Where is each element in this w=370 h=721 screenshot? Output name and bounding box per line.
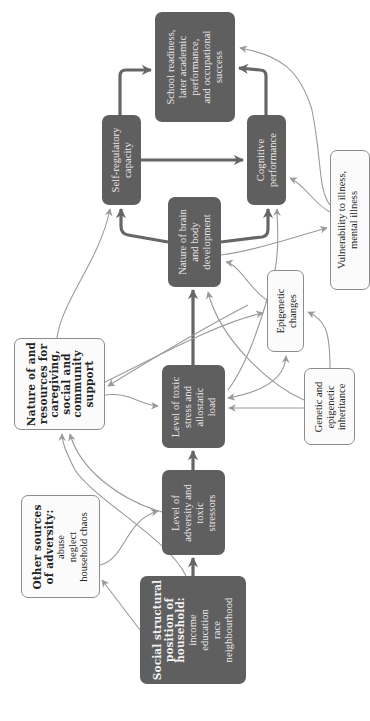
node-text: load [206,376,218,436]
node-text: development [201,209,213,275]
node-text: Vulnerability to illness, [336,171,348,269]
edge-epigenetic-to-brain [226,262,267,300]
node-text: and occupational [201,29,213,104]
edge-cognitive-to-school [239,68,266,115]
node-text: later academic [177,29,189,104]
node-text: Genetic and [312,381,324,431]
node-item: household chaos [78,504,90,589]
node-item: education [198,580,210,680]
node-text: and body [189,209,201,275]
edge-other-to-adversity [100,511,158,565]
node-text: allostatic [194,376,206,436]
edge-toxic-epigenetic [228,356,286,398]
node-text: School readiness, [165,29,177,104]
edge-vulnerability-to-cognitive [290,178,330,212]
node-title: Other sources [32,504,44,589]
node-text: mental illness [347,171,359,269]
node-title: community [71,342,83,426]
node-genetic-inheritance: Genetic and epigenetic inheritance [304,368,355,445]
node-title: support [83,342,95,426]
node-vulnerability: Vulnerability to illness, mental illness [330,150,370,290]
node-text: adversity and [182,484,194,542]
node-title: of adversity: [43,504,55,589]
node-text: capacity [122,127,134,192]
node-text: stress and [182,376,194,436]
node-item: neighbourhood [222,580,234,680]
node-title: social and [60,342,72,426]
edge-genetic-to-epigenetic [308,312,330,368]
edge-brain-to-cognitive [221,209,268,242]
edge-brain-to-vulnerability [221,228,327,255]
node-text: Self-regulatory [110,127,122,192]
node-school-readiness: School readiness, later academic perform… [155,12,235,122]
node-item: race [210,580,222,680]
node-title: Nature of and [25,342,37,426]
edge-selfreg-to-school [120,70,151,115]
node-brain-body-development: Nature of brain and body development [168,197,221,287]
node-text: epigenetic [324,381,336,431]
edge-resources-to-toxic [105,395,158,406]
node-item: neglect [66,504,78,589]
edge-resources-to-selfreg [57,209,110,338]
node-caregiving-resources: Nature of and resources for caregiving, … [14,338,105,430]
node-text: Level of toxic [170,376,182,436]
node-text: success [213,29,225,104]
node-adversity-stressors: Level of adversity and toxic stressors [162,470,225,555]
node-text: Cognitive [255,133,267,187]
node-text: stressors [206,484,218,542]
node-social-structural-position: Social structural position of household:… [140,576,246,684]
node-text: toxic [194,484,206,542]
node-other-adversity-sources: Other sources of adversity: abuse neglec… [21,495,100,598]
node-text: Epigenetic [274,289,286,334]
node-text: Level of [170,484,182,542]
node-title: household: [175,580,187,680]
node-text: performance [267,133,279,187]
node-text: changes [286,289,298,334]
node-self-regulatory: Self-regulatory capacity [102,115,141,205]
node-epigenetic-changes: Epigenetic changes [267,270,304,352]
node-cognitive-performance: Cognitive performance [247,115,286,205]
node-text: Nature of brain [177,209,189,275]
node-item: abuse [55,504,67,589]
node-item: income [186,580,198,680]
node-title: resources for [37,342,49,426]
node-title: caregiving, [48,342,60,426]
node-title: Social structural [152,580,164,680]
edge-brain-to-selfreg [121,209,168,242]
node-toxic-stress-load: Level of toxic stress and allostatic loa… [162,365,225,448]
edge-social-to-other [102,580,140,630]
node-text: inheritance [335,381,347,431]
node-text: performance, [189,29,201,104]
